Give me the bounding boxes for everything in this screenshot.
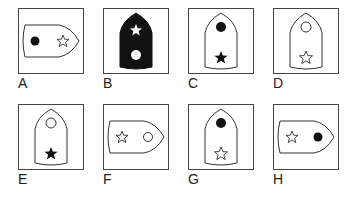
- shield-shape-up: [274, 9, 338, 73]
- option-label: G: [188, 172, 199, 186]
- outline-circle-icon: [301, 22, 311, 32]
- option-label: D: [273, 76, 283, 90]
- option-g-box[interactable]: [188, 104, 254, 170]
- shield-shape-right: [19, 9, 83, 73]
- shield-shape-right: [274, 105, 338, 169]
- shield-shape-up: [189, 9, 253, 73]
- outline-circle-icon: [144, 133, 153, 142]
- option-f-box[interactable]: [103, 104, 169, 170]
- option-h-box[interactable]: [273, 104, 339, 170]
- option-label: F: [103, 172, 112, 186]
- filled-circle-icon: [31, 37, 40, 46]
- option-d-box[interactable]: [273, 8, 339, 74]
- option-label: B: [103, 76, 112, 90]
- filled-circle-icon: [216, 22, 226, 32]
- shield-shape-up: [19, 105, 83, 169]
- option-e-box[interactable]: [18, 104, 84, 170]
- option-label: A: [18, 76, 27, 90]
- option-label: H: [273, 172, 283, 186]
- option-c[interactable]: C: [188, 8, 254, 98]
- option-label: E: [18, 172, 27, 186]
- option-e[interactable]: E: [18, 104, 84, 194]
- option-d[interactable]: D: [273, 8, 339, 98]
- option-label: C: [188, 76, 198, 90]
- option-b[interactable]: B: [103, 8, 169, 98]
- white-circle-icon: [131, 50, 141, 60]
- option-a[interactable]: A: [18, 8, 84, 98]
- shield-shape-up: [189, 105, 253, 169]
- option-g[interactable]: G: [188, 104, 254, 194]
- option-c-box[interactable]: [188, 8, 254, 74]
- option-a-box[interactable]: [18, 8, 84, 74]
- option-f[interactable]: F: [103, 104, 169, 194]
- shield-shape-right: [104, 105, 168, 169]
- filled-circle-icon: [216, 118, 226, 128]
- filled-circle-icon: [314, 133, 323, 142]
- option-h[interactable]: H: [273, 104, 339, 194]
- outline-circle-icon: [46, 118, 56, 128]
- option-b-box[interactable]: [103, 8, 169, 74]
- shield-shape-up: [104, 9, 168, 73]
